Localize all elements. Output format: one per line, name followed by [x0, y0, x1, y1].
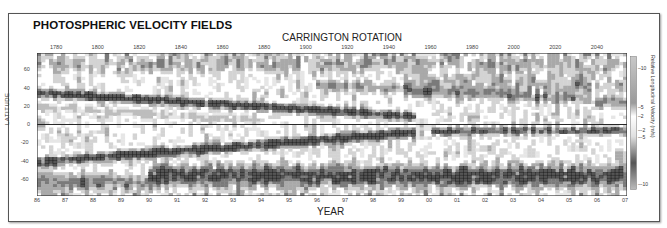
year-tick-label: 91 — [174, 197, 180, 203]
y-tick-label: 20 — [24, 103, 30, 109]
carrington-tick-label: 2000 — [508, 44, 520, 50]
year-tick-label: 07 — [622, 197, 628, 203]
year-tick-label: 95 — [286, 197, 292, 203]
year-axis-title: YEAR — [317, 206, 344, 217]
year-tick-label: 03 — [510, 197, 516, 203]
year-tick-label: 06 — [594, 197, 600, 203]
carrington-tick-label: 1940 — [383, 44, 395, 50]
chart-title: PHOTOSPHERIC VELOCITY FIELDS — [33, 19, 232, 31]
year-tick-label: 89 — [118, 197, 124, 203]
year-tick-label: 92 — [202, 197, 208, 203]
carrington-axis-title: CARRINGTON ROTATION — [282, 32, 402, 43]
colorbar-title: Relative Longitudinal Velocity (m/s) — [650, 55, 656, 137]
colorbar-tick-label: –2 — [638, 113, 644, 119]
carrington-tick-label: 1780 — [50, 44, 62, 50]
year-tick-label: 96 — [314, 197, 320, 203]
year-tick-label: 93 — [230, 197, 236, 203]
carrington-tick-label: 1900 — [300, 44, 312, 50]
carrington-tick-label: 1840 — [175, 44, 187, 50]
year-tick-label: 86 — [34, 197, 40, 203]
colorbar-tick-label: –-2 — [638, 127, 645, 133]
carrington-tick-label: 1880 — [258, 44, 270, 50]
year-tick-label: 04 — [538, 197, 544, 203]
colorbar-tick-label: –10 — [638, 65, 646, 71]
velocity-heatmap — [37, 53, 627, 196]
carrington-tick-label: 1800 — [92, 44, 104, 50]
latitude-axis-title: LATITUDE — [4, 92, 10, 125]
y-tick-label: -40 — [21, 158, 29, 164]
year-tick-label: 90 — [146, 197, 152, 203]
year-tick-label: 94 — [258, 197, 264, 203]
year-tick-label: 05 — [566, 197, 572, 203]
carrington-tick-label: 2040 — [591, 44, 603, 50]
carrington-tick-label: 1920 — [341, 44, 353, 50]
carrington-tick-label: 1980 — [466, 44, 478, 50]
y-tick-label: 0 — [27, 121, 30, 127]
year-tick-label: 87 — [62, 197, 68, 203]
carrington-tick-label: 1860 — [216, 44, 228, 50]
carrington-tick-label: 2020 — [549, 44, 561, 50]
year-tick-label: 99 — [398, 197, 404, 203]
year-tick-label: 97 — [342, 197, 348, 203]
carrington-tick-label: 1820 — [133, 44, 145, 50]
y-tick-label: -60 — [21, 176, 29, 182]
colorbar-tick-label: –5 — [638, 104, 644, 110]
y-tick-label: -20 — [21, 139, 29, 145]
y-tick-label: 60 — [24, 66, 30, 72]
year-tick-label: 00 — [426, 197, 432, 203]
year-tick-label: 01 — [454, 197, 460, 203]
colorbar-tick-label: –-10 — [638, 181, 648, 187]
year-tick-label: 02 — [482, 197, 488, 203]
colorbar-tick-label: –-5 — [638, 134, 645, 140]
y-tick-label: 40 — [24, 85, 30, 91]
carrington-tick-label: 1960 — [424, 44, 436, 50]
colorbar — [630, 56, 637, 190]
year-tick-label: 98 — [370, 197, 376, 203]
year-tick-label: 88 — [90, 197, 96, 203]
